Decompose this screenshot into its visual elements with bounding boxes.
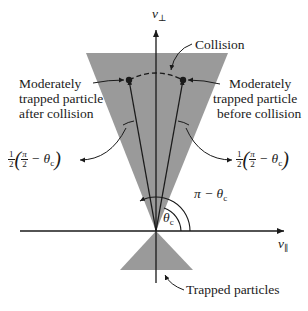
particle-after (126, 77, 132, 83)
before-collision-label: Moderately trapped particle before colli… (213, 76, 301, 121)
trapped-particles-label: Trapped particles (186, 282, 280, 297)
v-perp-label: v⊥ (152, 6, 166, 26)
particle-before (180, 77, 186, 83)
collision-label: Collision (195, 37, 245, 52)
after-collision-label: Moderately trapped particle after collis… (19, 76, 103, 121)
pi-minus-theta-label: π − θc (194, 186, 227, 206)
theta-c-label: θc (163, 210, 174, 230)
half-angle-left-label: 12(π2 − θc) (8, 150, 61, 171)
half-angle-right-label: 12(π2 − θc) (236, 150, 289, 171)
v-parallel-label: v∥ (278, 236, 288, 256)
